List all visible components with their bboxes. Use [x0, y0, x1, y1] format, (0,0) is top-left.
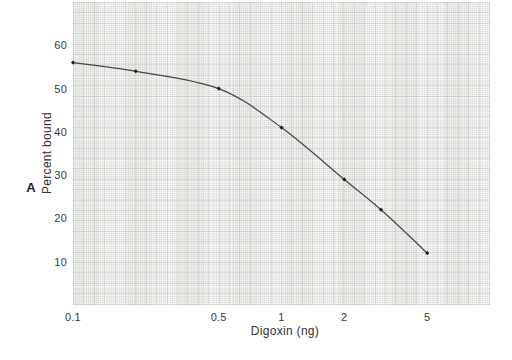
plot-area — [73, 2, 490, 305]
x-tick-label: 2 — [327, 310, 361, 324]
x-tick-label: 1 — [265, 310, 299, 324]
x-tick-label: 0.5 — [202, 310, 236, 324]
panel-label: A — [26, 180, 36, 195]
x-tick-label: 0.1 — [56, 310, 90, 324]
data-point-marker — [217, 86, 221, 90]
data-point-marker — [134, 69, 138, 73]
y-tick-label: 30 — [37, 168, 67, 182]
dose-response-curve — [73, 2, 490, 305]
y-tick-label: 40 — [37, 125, 67, 139]
y-tick-label: 60 — [37, 38, 67, 52]
y-tick-label: 50 — [37, 82, 67, 96]
figure-panel: A Percent bound 102030405060 0.10.5125 D… — [0, 0, 512, 360]
y-tick-label: 10 — [37, 255, 67, 269]
x-axis-title: Digoxin (ng) — [251, 324, 319, 338]
x-tick-label: 5 — [410, 310, 444, 324]
y-tick-label: 20 — [37, 211, 67, 225]
data-point-marker — [71, 61, 75, 65]
curve-line — [73, 63, 427, 254]
